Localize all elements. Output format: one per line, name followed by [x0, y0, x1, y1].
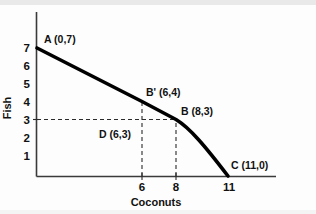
x-axis-title: Coconuts — [131, 196, 182, 208]
chart-container: 7 6 5 4 3 2 1 Fish 6 8 11 Coconuts A (0,… — [0, 0, 316, 214]
y-tick-label-5: 5 — [24, 78, 31, 90]
point-label-b-prime: B' (6,4) — [146, 86, 181, 98]
x-tick-label-8: 8 — [173, 181, 180, 193]
production-possibilities-chart: 7 6 5 4 3 2 1 Fish 6 8 11 Coconuts A (0,… — [0, 0, 316, 214]
x-tick-label-11: 11 — [223, 181, 236, 193]
y-tick-label-4: 4 — [24, 96, 31, 108]
y-tick-label-6: 6 — [24, 60, 30, 72]
y-tick-label-7: 7 — [24, 42, 30, 54]
x-tick-label-6: 6 — [139, 181, 145, 193]
point-label-c: C (11,0) — [231, 159, 268, 171]
y-axis-title: Fish — [1, 96, 13, 119]
point-label-b: B (8,3) — [181, 105, 213, 117]
point-label-d: D (6,3) — [99, 128, 131, 140]
y-tick-label-1: 1 — [24, 150, 31, 162]
y-tick-label-2: 2 — [24, 132, 30, 144]
point-label-a: A (0,7) — [44, 33, 76, 45]
y-tick-label-3: 3 — [24, 114, 30, 126]
